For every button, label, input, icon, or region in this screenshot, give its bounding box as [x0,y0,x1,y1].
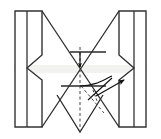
origami-diagram-canvas: Origami folding step diagram Symmetric o… [0,0,161,139]
origami-diagram-figure: Origami folding step diagram Symmetric o… [0,0,161,139]
